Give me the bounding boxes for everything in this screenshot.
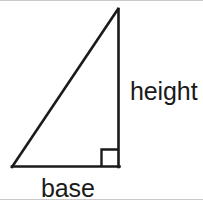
- triangle-hypotenuse: [12, 9, 118, 167]
- height-label: height: [130, 79, 198, 104]
- right-angle-marker-icon: [102, 150, 119, 167]
- base-label: base: [41, 176, 95, 200]
- geometry-figure: height base: [0, 0, 203, 200]
